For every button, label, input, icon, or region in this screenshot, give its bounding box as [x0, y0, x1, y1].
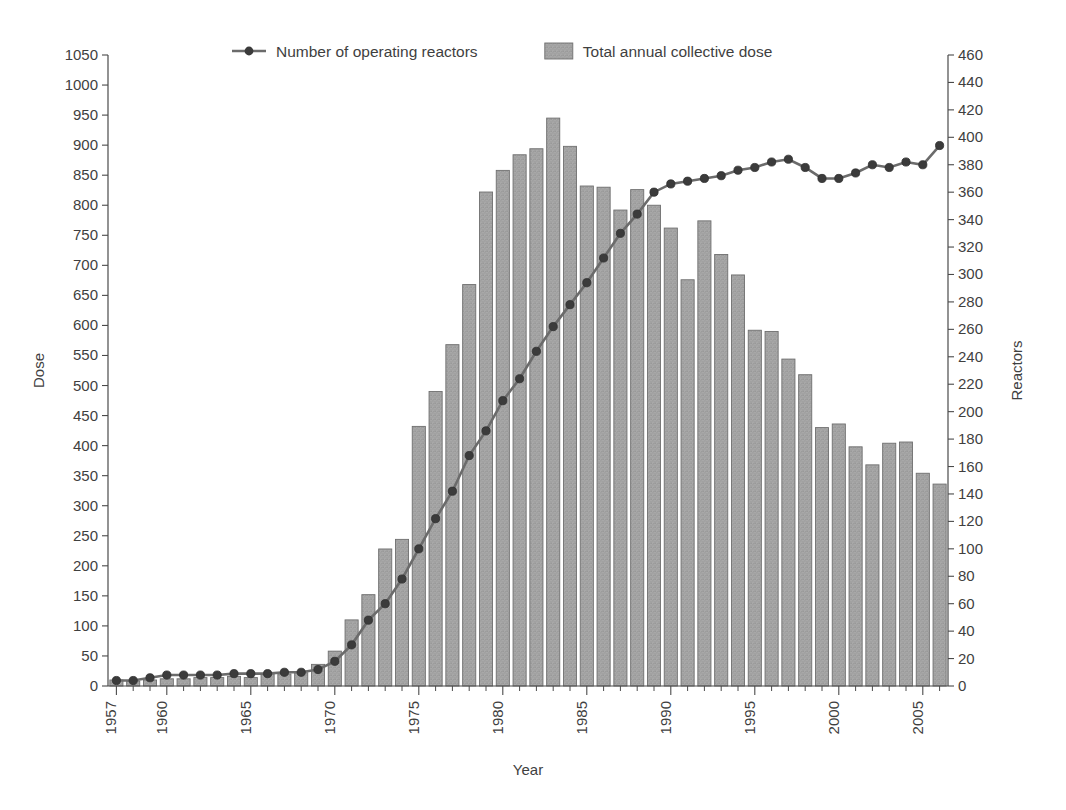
bar-1987	[614, 210, 627, 686]
bar-1976	[429, 392, 442, 686]
reactors-point-1971	[348, 641, 356, 649]
bar-1972	[362, 595, 375, 686]
reactors-point-1978	[465, 451, 473, 459]
y-tick-label-400: 400	[73, 437, 98, 454]
reactors-point-1960	[163, 671, 171, 679]
y2-tick-label-420: 420	[958, 101, 983, 118]
chart-canvas: 0501001502002503003504004505005506006507…	[0, 0, 1066, 810]
reactors-point-1986	[600, 254, 608, 262]
y-tick-label-800: 800	[73, 196, 98, 213]
bar-1961	[177, 679, 190, 686]
bar-1965	[244, 678, 257, 686]
reactors-point-1994	[734, 166, 742, 174]
reactors-point-1992	[700, 174, 708, 182]
x-tick-label-2000: 2000	[825, 701, 842, 734]
bar-2002	[866, 465, 879, 686]
y-tick-label-750: 750	[73, 226, 98, 243]
y-tick-label-900: 900	[73, 136, 98, 153]
legend-label-1: Total annual collective dose	[583, 43, 773, 60]
reactors-point-1979	[482, 427, 490, 435]
reactors-point-1969	[314, 665, 322, 673]
y2-tick-label-160: 160	[958, 458, 983, 475]
bar-2003	[883, 443, 896, 686]
reactors-point-2006	[936, 141, 944, 149]
reactors-point-1965	[247, 670, 255, 678]
y2-tick-label-400: 400	[958, 128, 983, 145]
reactors-point-1982	[532, 347, 540, 355]
bars-layer	[110, 118, 946, 686]
reactors-point-1990	[667, 180, 675, 188]
reactors-point-1962	[196, 671, 204, 679]
y-tick-label-450: 450	[73, 407, 98, 424]
reactors-point-1984	[566, 301, 574, 309]
reactors-point-1985	[583, 279, 591, 287]
bar-1999	[815, 428, 828, 686]
bar-1980	[496, 170, 509, 686]
y2-tick-label-460: 460	[958, 46, 983, 63]
x-tick-label-1985: 1985	[573, 701, 590, 734]
x-tick-label-1975: 1975	[405, 701, 422, 734]
bar-1971	[345, 620, 358, 686]
y2-tick-label-180: 180	[958, 430, 983, 447]
y-tick-label-300: 300	[73, 497, 98, 514]
y-tick-label-550: 550	[73, 346, 98, 363]
x-tick-label-1970: 1970	[321, 701, 338, 734]
bar-2006	[933, 484, 946, 686]
legend-rect-marker	[545, 43, 573, 59]
bar-1992	[698, 221, 711, 686]
y2-tick-label-0: 0	[958, 677, 966, 694]
reactors-point-1972	[364, 616, 372, 624]
bar-1978	[463, 285, 476, 686]
y2-tick-label-60: 60	[958, 595, 975, 612]
reactors-point-1991	[684, 177, 692, 185]
reactors-point-1980	[499, 397, 507, 405]
y-tick-label-500: 500	[73, 377, 98, 394]
bar-1982	[530, 149, 543, 686]
y-tick-label-950: 950	[73, 106, 98, 123]
y-tick-label-200: 200	[73, 557, 98, 574]
y2-tick-label-300: 300	[958, 265, 983, 282]
reactors-point-1957	[112, 676, 120, 684]
y2-tick-label-320: 320	[958, 238, 983, 255]
y2-axis-title: Reactors	[1008, 340, 1025, 400]
bar-1988	[631, 190, 644, 686]
bar-1997	[782, 359, 795, 686]
reactors-point-2003	[885, 163, 893, 171]
y2-tick-label-140: 140	[958, 485, 983, 502]
y-tick-label-100: 100	[73, 617, 98, 634]
bar-1991	[681, 280, 694, 686]
legend: Number of operating reactorsTotal annual…	[232, 43, 772, 60]
bar-1960	[160, 679, 173, 686]
x-tick-label-1995: 1995	[741, 701, 758, 734]
reactors-point-1973	[381, 600, 389, 608]
reactors-point-1967	[280, 668, 288, 676]
bar-1995	[748, 330, 761, 686]
bar-1973	[379, 549, 392, 686]
bar-1977	[446, 345, 459, 686]
bar-1996	[765, 331, 778, 686]
reactors-point-1977	[448, 487, 456, 495]
x-tick-label-2005: 2005	[909, 701, 926, 734]
bar-1998	[799, 375, 812, 686]
reactors-point-2000	[835, 174, 843, 182]
bar-1984	[563, 146, 576, 686]
y2-tick-label-220: 220	[958, 375, 983, 392]
y-tick-label-600: 600	[73, 316, 98, 333]
reactors-point-1989	[650, 188, 658, 196]
reactors-point-1983	[549, 323, 557, 331]
y2-tick-label-380: 380	[958, 156, 983, 173]
bar-1993	[715, 255, 728, 686]
bar-1990	[664, 228, 677, 686]
y2-tick-label-120: 120	[958, 512, 983, 529]
reactors-point-1988	[633, 210, 641, 218]
x-tick-label-1965: 1965	[237, 701, 254, 734]
reactors-point-1958	[129, 676, 137, 684]
reactors-point-1993	[717, 172, 725, 180]
reactors-point-1959	[146, 674, 154, 682]
reactors-point-2004	[902, 158, 910, 166]
reactors-point-1981	[516, 375, 524, 383]
x-tick-label-1990: 1990	[657, 701, 674, 734]
y2-tick-label-100: 100	[958, 540, 983, 557]
reactors-point-1995	[751, 163, 759, 171]
reactors-point-1987	[616, 229, 624, 237]
